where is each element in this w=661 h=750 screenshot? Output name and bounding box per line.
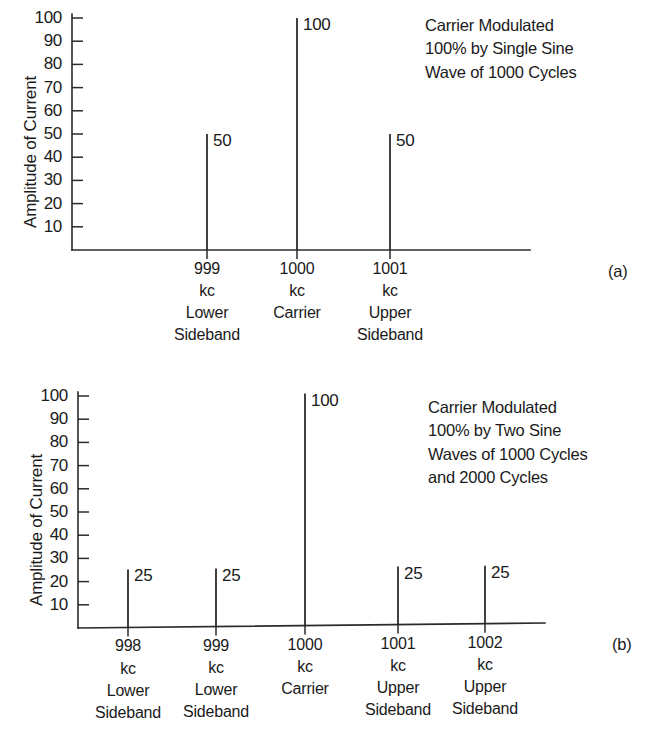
- y-tick-marks-b: [78, 396, 89, 605]
- y-tick-label: 100: [26, 387, 68, 404]
- annotation-line: and 2000 Cycles: [428, 466, 588, 489]
- y-tick-marks-a: [72, 18, 83, 227]
- x-tick-unit: kc: [335, 280, 445, 302]
- y-tick-label: 70: [20, 79, 62, 96]
- spectral-lines-a: [207, 18, 390, 250]
- x-tick-frequency: 1001: [335, 258, 445, 280]
- annotation-line: 100% by Single Sine: [425, 37, 577, 60]
- annotation-line: 100% by Two Sine: [428, 419, 588, 442]
- y-tick-label: 70: [26, 457, 68, 474]
- data-value-label: 25: [404, 565, 422, 582]
- x-tick-role-line-1: Upper: [430, 676, 540, 698]
- annotation-line: Carrier Modulated: [428, 396, 588, 419]
- x-tick-label-group: 1001kcUpperSideband: [335, 258, 445, 346]
- y-tick-label: 30: [26, 549, 68, 566]
- x-tick-role-line-2: Sideband: [430, 698, 540, 720]
- x-tick-role-line-1: Upper: [335, 302, 445, 324]
- annotation-text-a: Carrier Modulated100% by Single SineWave…: [425, 14, 577, 84]
- y-tick-label: 80: [20, 55, 62, 72]
- data-value-label: 100: [311, 392, 338, 409]
- annotation-line: Carrier Modulated: [425, 14, 577, 37]
- data-value-label: 50: [396, 132, 414, 149]
- y-tick-label: 40: [26, 526, 68, 543]
- y-tick-label: 90: [26, 410, 68, 427]
- annotation-line: Wave of 1000 Cycles: [425, 61, 577, 84]
- panel-tag-b: (b): [612, 635, 632, 654]
- y-tick-label: 80: [26, 433, 68, 450]
- data-value-label: 50: [213, 132, 231, 149]
- data-value-label: 25: [134, 567, 152, 584]
- y-tick-label: 10: [20, 218, 62, 235]
- data-value-label: 25: [491, 564, 509, 581]
- y-tick-label: 90: [20, 32, 62, 49]
- y-tick-label: 60: [26, 480, 68, 497]
- y-tick-label: 50: [20, 125, 62, 142]
- annotation-text-b: Carrier Modulated100% by Two SineWaves o…: [428, 396, 588, 490]
- x-axis-line-b: [78, 623, 545, 628]
- y-tick-label: 40: [20, 148, 62, 165]
- data-value-label: 25: [222, 567, 240, 584]
- y-tick-label: 10: [26, 596, 68, 613]
- panel-tag-a: (a): [608, 262, 628, 281]
- y-tick-label: 20: [26, 573, 68, 590]
- x-tick-role-line-2: Sideband: [335, 324, 445, 346]
- data-value-label: 100: [303, 16, 330, 33]
- x-tick-role-line-2: Sideband: [161, 701, 271, 723]
- y-tick-label: 60: [20, 102, 62, 119]
- y-tick-label: 50: [26, 503, 68, 520]
- y-tick-label: 100: [20, 9, 62, 26]
- annotation-line: Waves of 1000 Cycles: [428, 443, 588, 466]
- y-tick-label: 20: [20, 195, 62, 212]
- x-tick-unit: kc: [430, 654, 540, 676]
- x-tick-role-line-2: Sideband: [152, 324, 262, 346]
- y-tick-label: 30: [20, 171, 62, 188]
- x-tick-frequency: 1002: [430, 632, 540, 654]
- figure-panel-a: Amplitude of Current 1020304050607080901…: [0, 0, 661, 370]
- x-tick-label-group: 1002kcUpperSideband: [430, 632, 540, 720]
- figure-panel-b: Amplitude of Current 1020304050607080901…: [0, 380, 661, 750]
